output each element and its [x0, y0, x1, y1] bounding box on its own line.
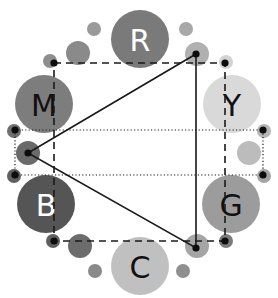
color-nodes-group: RMYBGC [15, 10, 261, 295]
small-circle [237, 141, 261, 165]
anchor-dot [192, 244, 199, 251]
color-label: C [130, 250, 151, 285]
color-label: G [219, 188, 242, 223]
color-node-r: R [111, 10, 169, 68]
small-circle [87, 22, 101, 36]
color-node-c: C [111, 237, 169, 295]
small-circle [88, 264, 102, 278]
color-node-g: G [202, 175, 260, 233]
anchor-dot [11, 126, 18, 133]
anchor-dot [192, 50, 199, 57]
small-circle [176, 264, 190, 278]
anchor-dot [221, 237, 228, 244]
anchor-dot [221, 59, 228, 66]
anchor-dot [50, 59, 57, 66]
diagram-canvas: RMYBGC [0, 0, 278, 298]
small-circle [66, 41, 90, 65]
small-circle [68, 234, 92, 258]
anchor-dot [50, 237, 57, 244]
anchor-dot [259, 171, 266, 178]
color-label: M [31, 88, 57, 123]
dashed-rectangle [54, 63, 225, 241]
color-node-b: B [17, 175, 75, 233]
small-circle [179, 22, 193, 36]
anchor-dot [259, 126, 266, 133]
color-label: Y [222, 88, 242, 123]
anchor-dot [11, 171, 18, 178]
color-node-y: Y [203, 75, 261, 133]
color-label: R [130, 23, 151, 58]
color-node-m: M [15, 75, 73, 133]
anchor-dot [24, 149, 31, 156]
color-wheel-diagram: RMYBGC [0, 0, 278, 298]
